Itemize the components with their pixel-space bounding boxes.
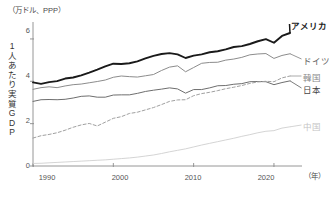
legend-leader-lines xyxy=(290,24,302,127)
leader-line-america xyxy=(290,24,291,33)
series-line-china xyxy=(33,127,290,164)
chart-plot-area xyxy=(0,0,334,201)
series-line-united-states xyxy=(33,33,290,84)
series-label-america: アメリカ xyxy=(291,19,327,31)
leader-line-germany xyxy=(290,54,302,59)
series-label-china: 中国 xyxy=(303,120,321,132)
series-label-japan: 日本 xyxy=(303,83,321,95)
series-paths xyxy=(33,33,290,163)
series-line-japan xyxy=(33,81,290,102)
chart-page: （万ドル、PPP） 1人あたり実質GDP 0 2 4 6 1990 2000 2… xyxy=(0,0,334,201)
axis-lines xyxy=(33,22,302,166)
leader-line-japan xyxy=(290,81,302,88)
series-line-germany xyxy=(33,54,290,90)
series-label-germany: ドイツ xyxy=(303,54,330,66)
series-label-korea: 韓国 xyxy=(303,71,321,83)
leader-line-china xyxy=(290,125,302,127)
